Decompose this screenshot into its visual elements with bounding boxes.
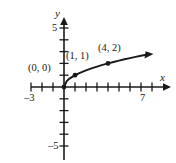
x-axis-label: x [160,72,165,83]
graph-figure: y x 5 –5 –3 7 (0, 0) (1, 1) (4, 2) [0,0,176,163]
coordinate-plane-svg [0,0,176,163]
x-tick-label-7: 7 [140,93,145,104]
y-axis-label: y [55,8,60,19]
point-label-origin: (0, 0) [28,63,51,74]
point-marker-one-one [73,73,78,78]
y-tick-label-neg5: –5 [48,141,59,152]
x-axis-arrow-icon [163,83,171,91]
point-label-four-two: (4, 2) [98,43,121,54]
curve-arrow-icon [145,51,154,58]
point-marker-origin [62,85,67,90]
x-tick-label-neg3: –3 [24,93,35,104]
y-axis-arrow-icon [60,17,68,25]
point-label-one-one: (1, 1) [66,51,89,62]
point-marker-four-two [106,61,111,66]
y-tick-label-5: 5 [52,23,57,34]
